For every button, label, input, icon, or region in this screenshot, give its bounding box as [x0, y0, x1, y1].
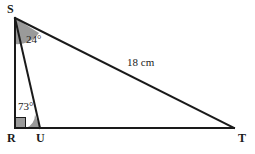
vertex-label-r: R — [7, 132, 16, 144]
side-length-label-st: 18 cm — [127, 57, 154, 68]
angle-label-rsu: 24° — [26, 34, 41, 45]
geometry-figure: S R U T 24° 73° 18 cm — [0, 0, 255, 154]
segment-st — [15, 18, 234, 128]
vertex-label-t: T — [238, 132, 246, 144]
vertex-label-s: S — [7, 3, 14, 15]
right-angle-marker-at-r — [15, 118, 26, 129]
vertex-label-u: U — [36, 132, 45, 144]
angle-label-sur: 73° — [18, 101, 33, 112]
